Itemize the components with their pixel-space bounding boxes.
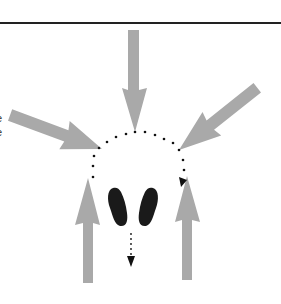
dotted-arrow-down-icon — [127, 233, 135, 267]
arrow-down-left-icon — [170, 76, 267, 162]
arrow-up-right-icon — [175, 176, 200, 280]
dotted-path-arc — [92, 131, 186, 179]
footprint-diagram — [0, 0, 281, 304]
arrow-up-left-icon — [75, 178, 100, 283]
arrow-down-icon — [122, 30, 147, 132]
footprints-icon — [108, 188, 158, 226]
arrow-down-right-icon — [5, 101, 107, 163]
